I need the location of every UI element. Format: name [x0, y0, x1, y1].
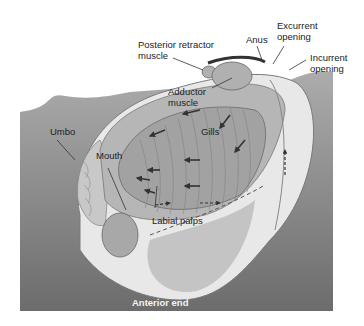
label-posterior-retractor-muscle: Posterior retractor muscle: [138, 39, 214, 61]
label-gills: Gills: [201, 126, 219, 137]
label-anterior-end: Anterior end: [132, 297, 188, 308]
label-adductor-muscle: Adductor muscle: [168, 86, 206, 108]
label-labial-palps: Labial palps: [152, 215, 203, 226]
label-umbo: Umbo: [50, 126, 75, 137]
label-mouth: Mouth: [96, 150, 122, 161]
label-excurrent-opening: Excurrent opening: [277, 20, 318, 42]
adductor-muscle: [212, 62, 252, 90]
label-anus: Anus: [246, 34, 268, 45]
anterior-adductor: [102, 213, 138, 257]
label-incurrent-opening: Incurrent opening: [310, 52, 348, 74]
